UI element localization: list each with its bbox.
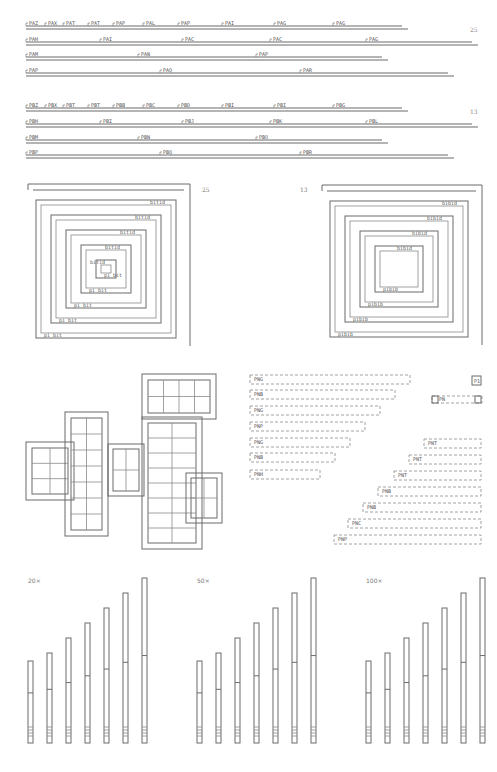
spiral-left-number: 25 — [202, 186, 210, 193]
tap-label: PBQ — [163, 149, 172, 155]
svg-text:PNB: PNB — [254, 454, 263, 460]
svg-text:PNG: PNG — [254, 376, 263, 382]
tap-label: PBB — [116, 102, 125, 108]
tap-label: PAP — [116, 20, 125, 26]
svg-text:P1: P1 — [474, 378, 480, 384]
tap-label: PAG — [369, 36, 378, 42]
page-number-a: 25 — [470, 26, 478, 33]
figure-page: PAZPAXPATPATPAPPALPAPPAIPAGPAGPAHPAIPACP… — [0, 0, 497, 772]
spiral-label: bitid — [150, 199, 165, 205]
bar — [273, 608, 278, 743]
page-number-b: 13 — [470, 108, 478, 115]
bus-row: PAHPAIPACPACPAG — [26, 36, 478, 45]
svg-text:PNT: PNT — [413, 456, 422, 462]
svg-text:PNG: PNG — [254, 407, 263, 413]
bar — [366, 661, 371, 743]
bar — [292, 593, 297, 743]
spiral-label: bibid — [427, 215, 442, 221]
tap-label: PBO — [259, 134, 268, 140]
dashed-box — [250, 422, 365, 431]
tap-label: PAG — [336, 20, 345, 26]
bar — [442, 608, 447, 743]
bar — [47, 653, 52, 743]
tap-label: PBC — [146, 102, 155, 108]
svg-text:PNB: PNB — [367, 504, 376, 510]
tap-label: PAP — [181, 20, 190, 26]
bar — [461, 593, 466, 743]
svg-text:PNB: PNB — [382, 488, 391, 494]
dashed-box — [250, 390, 395, 399]
bar-group-3 — [366, 578, 485, 743]
bus-panel-b: PBZPBXPBTPBTPBBPBCPBDPBIPBIPBGPBHPBIPBJP… — [26, 102, 478, 158]
spiral-label: pibib — [338, 331, 353, 338]
bus-row: PBZPBXPBTPBTPBBPBCPBDPBIPBIPBG — [26, 102, 408, 111]
dashed-box — [334, 535, 481, 544]
tap-label: PBT — [66, 102, 75, 108]
dashed-box — [348, 519, 481, 528]
tap-label: PBL — [369, 118, 378, 124]
bar-group-1 — [28, 578, 147, 743]
spiral-right: bibidpibibbibidpibibbibidpibibbibidpibib — [322, 185, 482, 345]
spiral-label: bitid — [135, 214, 150, 220]
bus-row: PBMPBNPBO — [26, 134, 388, 143]
spiral-label: bitid — [90, 259, 105, 265]
svg-text:PNP: PNP — [254, 423, 263, 429]
bar — [104, 608, 109, 743]
tap-label: PAG — [277, 20, 286, 26]
tap-label: PAI — [225, 20, 234, 26]
bar — [197, 661, 202, 743]
tap-label: PAC — [185, 36, 194, 42]
tap-label: PBD — [181, 102, 190, 108]
bar-group-label-50x: 50× — [197, 577, 210, 584]
tap-label: PBT — [91, 102, 100, 108]
spiral-label: pi bit — [59, 317, 77, 324]
tap-label: PAM — [29, 51, 38, 57]
tap-label: PBZ — [29, 102, 38, 108]
tap-label: PAQ — [163, 67, 172, 73]
tap-label: PAR — [303, 67, 313, 73]
tap-label: PBM — [29, 134, 38, 140]
spiral-label: pibib — [368, 301, 383, 308]
dashed-box — [250, 438, 350, 447]
spiral-label: bibid — [442, 200, 457, 206]
spiral-label: bibid — [397, 245, 412, 251]
spiral-label: pi bit — [104, 272, 122, 279]
tap-label: PAT — [91, 20, 100, 26]
bar — [216, 653, 221, 743]
tap-label: PAN — [141, 51, 150, 57]
tap-label: PBI — [225, 102, 234, 108]
tap-label: PAH — [29, 36, 38, 42]
bus-row: PAMPANPAP — [26, 51, 388, 60]
tap-label: PBG — [336, 102, 345, 108]
bus-row: PAPPAQPAR — [26, 67, 454, 76]
svg-text:PNH: PNH — [254, 471, 263, 477]
dashed-box — [394, 471, 481, 480]
tap-label: PAX — [48, 20, 57, 26]
tap-label: PAP — [29, 67, 38, 73]
svg-text:PNT: PNT — [428, 440, 437, 446]
spiral-label: bitid — [120, 229, 135, 235]
bar — [123, 593, 128, 743]
bar-group-2 — [197, 578, 316, 743]
spiral-label: pibib — [353, 316, 368, 323]
tap-label: PBR — [303, 149, 313, 155]
svg-text:PNB: PNB — [254, 391, 263, 397]
spiral-label: pibib — [383, 286, 398, 293]
dashed-box — [250, 406, 380, 415]
tap-label: PBI — [103, 118, 112, 124]
tap-label: PBP — [29, 149, 38, 155]
bar — [385, 653, 390, 743]
tap-label: PAI — [103, 36, 112, 42]
spiral-label: pi bit — [44, 332, 62, 339]
bar — [254, 623, 259, 743]
figure-canvas: PAZPAXPATPATPAPPALPAPPAIPAGPAGPAHPAIPACP… — [0, 0, 497, 772]
bar — [480, 578, 485, 743]
svg-text:PNP: PNP — [338, 536, 347, 542]
svg-text:PN: PN — [439, 396, 445, 402]
bar — [85, 623, 90, 743]
spiral-label: bibid — [412, 230, 427, 236]
spiral-label: pi bit — [89, 287, 107, 294]
tap-label: PBX — [48, 102, 57, 108]
svg-text:PNC: PNC — [352, 520, 361, 526]
spiral-label: bitid — [105, 244, 120, 250]
